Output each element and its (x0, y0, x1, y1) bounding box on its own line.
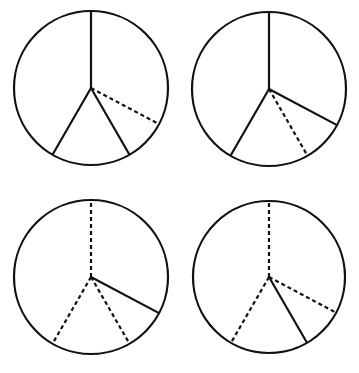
radius-right-solid (269, 89, 337, 125)
radius-right-solid (91, 277, 159, 313)
circle-1 (14, 11, 168, 165)
circle-4 (193, 201, 345, 353)
radius-lower-left-dashed (231, 277, 269, 343)
circle-2 (192, 12, 346, 166)
diagram-canvas (0, 0, 359, 373)
radius-lower-left-dashed (53, 277, 92, 344)
circle-3 (14, 200, 168, 354)
radius-lower-left-solid (231, 89, 270, 156)
radius-lower-left-solid (53, 88, 92, 155)
